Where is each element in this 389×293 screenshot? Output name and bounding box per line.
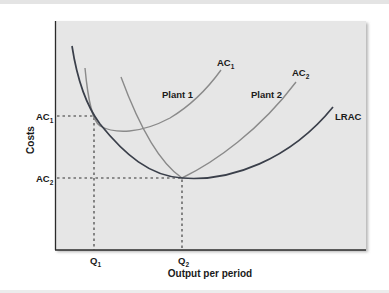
plant1-label: Plant 1 bbox=[162, 89, 194, 100]
cost-curves-diagram: Costs AC1 AC2 Q1 Q2 Output per period AC… bbox=[0, 0, 389, 293]
plant2-label: Plant 2 bbox=[251, 89, 282, 100]
y-axis-label: Costs bbox=[25, 126, 36, 154]
q1-tick-label: Q1 bbox=[90, 255, 101, 268]
ac2-axis-label: AC2 bbox=[36, 173, 54, 186]
lrac-label: LRAC bbox=[335, 111, 362, 122]
ac1-axis-label: AC1 bbox=[36, 111, 54, 124]
q2-tick-label: Q2 bbox=[178, 255, 189, 268]
plot-area bbox=[55, 21, 366, 250]
x-axis-label: Output per period bbox=[168, 268, 252, 279]
